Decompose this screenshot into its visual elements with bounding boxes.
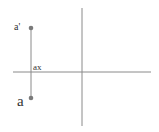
point-a <box>29 96 34 101</box>
label-a: a <box>17 93 24 109</box>
label-a-prime: a' <box>14 21 20 32</box>
label-ax: ax <box>33 62 42 72</box>
projection-diagram: a' ax a <box>0 0 159 132</box>
point-a-prime <box>29 26 34 31</box>
